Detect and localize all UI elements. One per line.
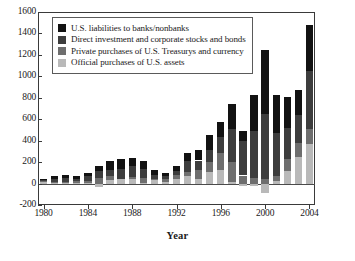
bar-segment bbox=[306, 144, 313, 184]
legend-swatch-icon bbox=[58, 59, 66, 67]
bar-segment bbox=[284, 97, 291, 129]
bar-segment bbox=[273, 176, 280, 180]
y-axis-tick-mark bbox=[38, 162, 42, 163]
bar-segment bbox=[295, 90, 302, 115]
bar-segment bbox=[84, 173, 91, 177]
bar-segment bbox=[51, 183, 58, 184]
bar-segment bbox=[73, 181, 80, 183]
bar-segment bbox=[206, 172, 213, 184]
bar-segment bbox=[206, 162, 213, 172]
legend-item: Direct investment and corporate stocks a… bbox=[58, 34, 246, 45]
bar-segment bbox=[295, 157, 302, 184]
y-axis-tick-label: 400 bbox=[4, 136, 36, 146]
bar-segment bbox=[117, 159, 124, 169]
bar-segment bbox=[284, 171, 291, 183]
bar-segment bbox=[95, 184, 102, 188]
bar-segment bbox=[129, 177, 136, 180]
bar-segment bbox=[195, 170, 202, 180]
bar-segment bbox=[239, 141, 246, 175]
bar-segment bbox=[250, 95, 257, 131]
bar-segment bbox=[162, 173, 169, 176]
y-axis-tick-label: 600 bbox=[4, 114, 36, 124]
bar-segment bbox=[51, 179, 58, 182]
bar-segment bbox=[151, 180, 158, 184]
bar-group bbox=[306, 12, 313, 205]
bar-segment bbox=[95, 171, 102, 179]
legend-item-label: Direct investment and corporate stocks a… bbox=[71, 35, 246, 44]
bar-segment bbox=[250, 131, 257, 178]
x-axis-tick-label: 1980 bbox=[34, 208, 52, 218]
bar-group bbox=[273, 12, 280, 205]
bar-segment bbox=[284, 128, 291, 159]
bar-segment bbox=[184, 172, 191, 176]
bar-segment bbox=[284, 159, 291, 171]
bar-segment bbox=[250, 178, 257, 184]
legend-swatch-icon bbox=[58, 47, 66, 55]
bar-segment bbox=[217, 153, 224, 170]
bar-segment bbox=[184, 176, 191, 184]
x-axis-tick-label: 2004 bbox=[300, 208, 318, 218]
y-axis-tick-label: 1200 bbox=[4, 50, 36, 60]
bar-segment bbox=[84, 181, 91, 184]
legend-item-label: Private purchases of U.S. Treasurys and … bbox=[71, 47, 244, 56]
bar-segment bbox=[51, 182, 58, 183]
bar-segment bbox=[273, 181, 280, 184]
x-axis-tick-label: 2000 bbox=[256, 208, 274, 218]
bar-segment bbox=[306, 129, 313, 144]
bar-segment bbox=[295, 115, 302, 143]
x-axis-tick-label: 1996 bbox=[212, 208, 230, 218]
bar-segment bbox=[306, 71, 313, 129]
bar-segment bbox=[228, 162, 235, 181]
bar-segment bbox=[151, 175, 158, 180]
legend-item: Private purchases of U.S. Treasurys and … bbox=[58, 46, 246, 57]
bar-segment bbox=[106, 176, 113, 180]
x-axis-tick-label: 1988 bbox=[123, 208, 141, 218]
bar-segment bbox=[129, 158, 136, 166]
bar-segment bbox=[84, 176, 91, 180]
y-axis-tick-label: 1600 bbox=[4, 7, 36, 17]
y-axis-tick-mark bbox=[38, 33, 42, 34]
y-axis-tick-mark bbox=[38, 55, 42, 56]
bar-segment bbox=[206, 150, 213, 161]
y-axis-tick-mark bbox=[38, 98, 42, 99]
bar-segment bbox=[273, 95, 280, 133]
legend-item: U.S. liabilities to banks/nonbanks bbox=[58, 23, 246, 34]
y-axis-tick-mark bbox=[38, 184, 42, 185]
legend-item: Official purchases of U.S. assets bbox=[58, 57, 246, 68]
bar-segment bbox=[40, 180, 47, 182]
bar-segment bbox=[73, 183, 80, 184]
bar-segment bbox=[51, 176, 58, 179]
bar-segment bbox=[217, 122, 224, 137]
bar-segment bbox=[140, 161, 147, 169]
bar-segment bbox=[261, 114, 268, 179]
bar-segment bbox=[295, 143, 302, 157]
y-axis-tick-label: 0 bbox=[4, 179, 36, 189]
bar-segment bbox=[40, 179, 47, 180]
y-axis-tick-label: -200 bbox=[4, 200, 36, 210]
bar-segment bbox=[84, 183, 91, 184]
legend-item-label: U.S. liabilities to banks/nonbanks bbox=[71, 24, 189, 33]
bar-segment bbox=[162, 179, 169, 182]
x-axis-tick-label: 1984 bbox=[79, 208, 97, 218]
chart-legend: U.S. liabilities to banks/nonbanksDirect… bbox=[52, 17, 253, 74]
legend-swatch-icon bbox=[58, 24, 66, 32]
y-axis: 16001400120010008006004002000-200 bbox=[0, 0, 36, 261]
bar-segment bbox=[129, 179, 136, 183]
bar-segment bbox=[195, 179, 202, 183]
bar-group bbox=[295, 12, 302, 205]
bar-segment bbox=[151, 170, 158, 175]
bar-group bbox=[284, 12, 291, 205]
bar-segment bbox=[95, 166, 102, 171]
bar-segment bbox=[106, 180, 113, 184]
bar-segment bbox=[62, 183, 69, 184]
bar-segment bbox=[62, 178, 69, 182]
bar-segment bbox=[184, 161, 191, 172]
bar-segment bbox=[261, 50, 268, 115]
bar-segment bbox=[261, 179, 268, 183]
bar-segment bbox=[140, 178, 147, 183]
bar-segment bbox=[217, 137, 224, 153]
bar-segment bbox=[162, 176, 169, 179]
bar-segment bbox=[195, 150, 202, 160]
bar-segment bbox=[73, 179, 80, 182]
bar-segment bbox=[140, 183, 147, 184]
